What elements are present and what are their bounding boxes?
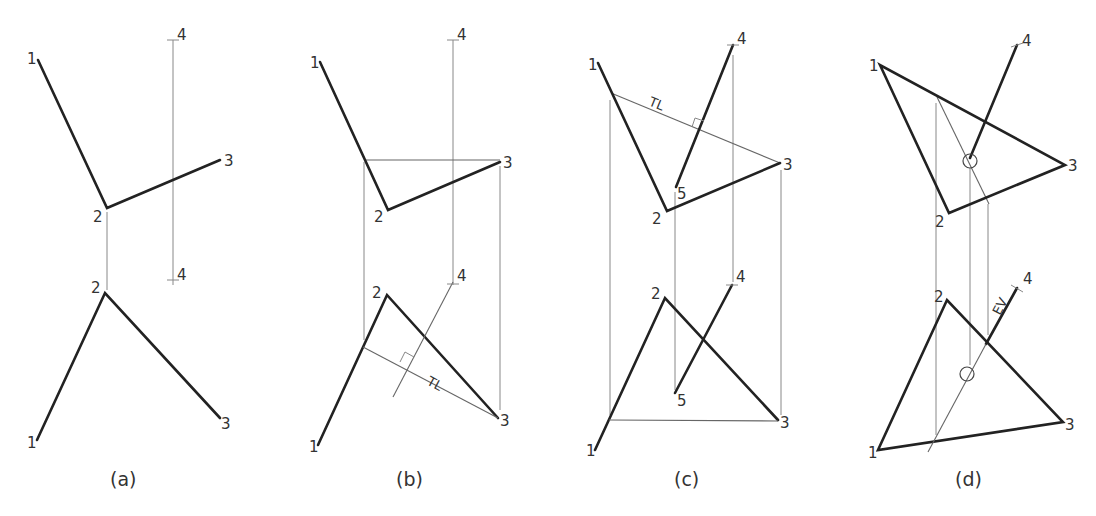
label-2: 2 <box>934 288 944 306</box>
label-4: 4 <box>457 267 467 285</box>
label-4: 4 <box>177 26 187 44</box>
label-1: 1 <box>586 442 596 460</box>
label-4: 4 <box>737 30 747 48</box>
label-1: 1 <box>310 54 320 72</box>
label-1: 1 <box>27 434 37 452</box>
label-3: 3 <box>221 415 231 433</box>
plane-edges-top <box>598 63 780 211</box>
label-4: 4 <box>1022 32 1032 50</box>
tl-label: TL <box>424 373 446 394</box>
label-4: 4 <box>457 26 467 44</box>
ev-label: EV <box>989 295 1010 317</box>
panel-c-front-view: 1 2 3 4 5 <box>586 268 790 460</box>
panel-b-top-view: 1 2 3 4 <box>310 26 513 410</box>
true-length-line <box>611 93 780 163</box>
panel-c-top-view: TL 1 2 3 4 5 <box>588 30 793 415</box>
plane-edges-front <box>37 293 220 440</box>
label-3: 3 <box>500 412 510 430</box>
panel-d-front-view: EV 1 2 3 4 <box>868 270 1075 462</box>
panel-b: 1 2 3 4 TL 1 2 3 4 (b) <box>309 26 513 490</box>
label-1: 1 <box>868 444 878 462</box>
panel-c: TL 1 2 3 4 5 1 2 3 4 5 (c) <box>586 30 793 490</box>
label-2: 2 <box>652 210 662 228</box>
cutting-line-top <box>937 97 989 204</box>
label-3: 3 <box>780 414 790 432</box>
plane-edges-front <box>318 295 498 445</box>
label-2: 2 <box>372 284 382 302</box>
plane-edges-front <box>595 298 778 450</box>
label-2: 2 <box>91 279 101 297</box>
plane-triangle-top <box>880 65 1065 213</box>
point-4-cross <box>1011 285 1023 292</box>
plane-edges-top <box>320 62 500 210</box>
label-4: 4 <box>736 268 746 286</box>
caption-a: (a) <box>110 468 136 490</box>
label-3: 3 <box>224 152 234 170</box>
descriptive-geometry-figure: 1 2 3 4 1 2 3 4 (a) 1 2 3 4 <box>0 0 1096 516</box>
panel-d-top-view: 1 2 3 4 <box>869 32 1078 435</box>
label-1: 1 <box>27 50 37 68</box>
line-4-5-top <box>676 45 733 187</box>
label-1: 1 <box>309 438 319 456</box>
label-3: 3 <box>1068 157 1078 175</box>
label-4: 4 <box>177 266 187 284</box>
label-2: 2 <box>374 208 384 226</box>
label-3: 3 <box>783 156 793 174</box>
label-5: 5 <box>677 392 687 410</box>
plane-edges-top <box>38 60 220 208</box>
caption-c: (c) <box>674 468 699 490</box>
caption-b: (b) <box>396 468 423 490</box>
tl-label: TL <box>646 93 667 113</box>
line-4-5-front <box>675 285 732 393</box>
label-4: 4 <box>1023 270 1033 288</box>
panel-a: 1 2 3 4 1 2 3 4 (a) <box>27 26 234 490</box>
panel-d: 1 2 3 4 EV 1 2 3 4 (d) <box>868 32 1078 490</box>
panel-a-top-view: 1 2 3 4 <box>27 26 234 290</box>
label-2: 2 <box>651 285 661 303</box>
label-1: 1 <box>869 57 879 75</box>
label-2: 2 <box>93 208 103 226</box>
label-2: 2 <box>935 213 945 231</box>
label-3: 3 <box>503 154 513 172</box>
label-1: 1 <box>588 56 598 74</box>
panel-b-front-view: TL 1 2 3 4 <box>309 267 510 456</box>
label-3: 3 <box>1065 416 1075 434</box>
horizontal-line-front <box>609 420 778 421</box>
panel-a-front-view: 1 2 3 4 <box>27 266 231 452</box>
line-4-top <box>970 45 1017 158</box>
label-5: 5 <box>677 185 687 203</box>
caption-d: (d) <box>955 468 982 490</box>
